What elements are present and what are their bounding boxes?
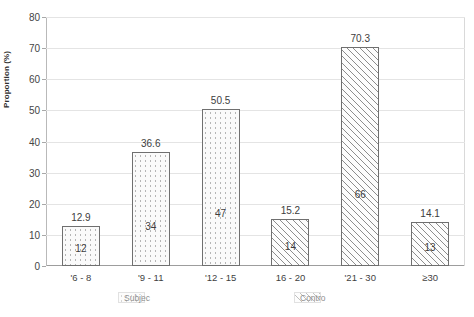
bar-count-label: 66 [355, 189, 366, 200]
bar-slot: 50.547 [186, 17, 256, 266]
bar-count-label: 34 [145, 221, 156, 232]
y-tick-label: 30 [6, 167, 40, 178]
y-tick-label: 70 [6, 43, 40, 54]
bar-count-label: 12 [75, 243, 86, 254]
x-category-label: '12 - 15 [186, 272, 256, 283]
bar-count-label: 13 [425, 242, 436, 253]
legend-item[interactable]: Subjec [118, 292, 162, 305]
chart-legend: SubjecContro [46, 290, 465, 308]
bar-count-label: 47 [215, 208, 226, 219]
y-tick-label: 60 [6, 74, 40, 85]
bar-value-label: 15.2 [281, 205, 300, 216]
bar-count-label: 14 [285, 241, 296, 252]
x-category-label: ≥30 [395, 272, 465, 283]
bar[interactable] [132, 152, 170, 266]
y-tick-label: 20 [6, 198, 40, 209]
bar-value-label: 36.6 [141, 138, 160, 149]
bar-value-label: 14.1 [420, 208, 439, 219]
y-tick-label: 40 [6, 136, 40, 147]
x-axis-categories: '6 - 8'9 - 11'12 - 1516 - 20'21 - 30≥30 [46, 272, 465, 286]
x-category-label: 16 - 20 [256, 272, 326, 283]
x-category-label: '6 - 8 [46, 272, 116, 283]
y-tick-label: 50 [6, 105, 40, 116]
bar[interactable] [341, 47, 379, 266]
y-tick-label: 10 [6, 229, 40, 240]
bar-slot: 36.634 [116, 17, 186, 266]
bar-slot: 70.366 [325, 17, 395, 266]
y-tick-mark [42, 266, 46, 267]
bar-value-label: 70.3 [351, 33, 370, 44]
bar-value-label: 50.5 [211, 95, 230, 106]
x-category-label: '21 - 30 [325, 272, 395, 283]
legend-item[interactable]: Contro [294, 292, 338, 305]
legend-label: Contro [300, 293, 326, 303]
bars-group: 12.91236.63450.54715.21470.36614.113 [46, 17, 465, 266]
bar-slot: 14.113 [395, 17, 465, 266]
x-category-label: '9 - 11 [116, 272, 186, 283]
bar-slot: 12.912 [46, 17, 116, 266]
bar-slot: 15.214 [256, 17, 326, 266]
y-tick-label: 80 [6, 12, 40, 23]
y-tick-label: 0 [6, 261, 40, 272]
bar-chart: Proportion (%) 01020304050607080 12.9123… [0, 0, 474, 317]
legend-label: Subjec [124, 293, 150, 303]
bar-value-label: 12.9 [71, 212, 90, 223]
bar[interactable] [202, 109, 240, 266]
